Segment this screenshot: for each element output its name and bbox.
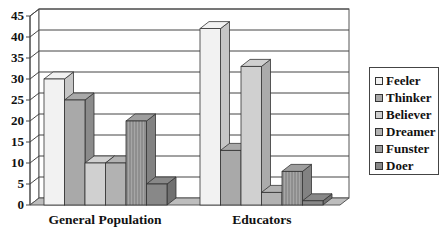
legend: FeelerThinkerBelieverDreamerFunsterDoer [369,67,439,175]
y-tick-label: 15 [11,134,25,149]
bar-doer-0 [147,177,177,205]
y-axis-ticks: 051015202530354045 [11,8,30,212]
legend-item-doer: Doer [375,157,438,174]
legend-item-funster: Funster [375,140,438,157]
y-tick-label: 5 [18,176,25,191]
y-tick-label: 45 [11,8,25,23]
legend-swatch-icon [375,145,383,153]
legend-item-dreamer: Dreamer [375,123,438,140]
x-category-label: General Population [49,212,162,227]
legend-swatch-icon [375,128,383,136]
legend-swatch-icon [375,111,383,119]
x-category-label: Educators [232,212,291,227]
bar-believer-1 [241,59,271,205]
x-axis-labels: General PopulationEducators [49,212,292,227]
y-tick-label: 35 [11,50,25,65]
legend-label: Funster [386,141,429,157]
legend-swatch-icon [375,94,383,102]
legend-label: Feeler [386,73,421,89]
y-tick-label: 0 [18,197,25,212]
legend-item-feeler: Feeler [375,72,438,89]
legend-label: Thinker [386,90,432,106]
legend-swatch-icon [375,162,383,170]
legend-item-believer: Believer [375,106,438,123]
legend-label: Believer [386,107,431,123]
legend-label: Dreamer [386,124,436,140]
y-tick-label: 25 [11,92,25,107]
legend-item-thinker: Thinker [375,89,438,106]
y-tick-label: 10 [11,155,24,170]
legend-label: Doer [386,158,413,174]
y-tick-label: 30 [11,71,24,86]
y-tick-label: 40 [11,29,24,44]
y-tick-label: 20 [11,113,24,128]
legend-swatch-icon [375,77,383,85]
